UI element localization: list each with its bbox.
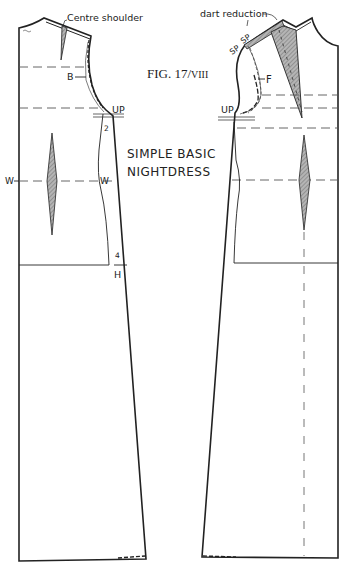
back-shoulder-seam [46, 22, 90, 39]
waist-label-right: W [100, 176, 109, 186]
front-armhole-inner [243, 75, 258, 113]
figure-titles: FIG. 17/VIII SIMPLE BASIC NIGHTDRESS [127, 66, 216, 179]
figure-number: FIG. 17/VIII [147, 66, 208, 81]
front-bust-dart [271, 26, 302, 118]
front-outline [202, 18, 338, 558]
dart-reduction-annotation: dart reduction [200, 8, 268, 19]
back-neck-mark [23, 30, 31, 32]
pattern-diagram: Centre shoulder B UP 2 W W 4 H FIG. 17/V… [0, 0, 357, 586]
front-hip-curve [234, 122, 338, 263]
hip-measure-label: 4 [115, 251, 120, 260]
hip-label: H [114, 269, 121, 280]
sp-arrow-icon [247, 20, 248, 26]
bust-label: B [67, 71, 74, 82]
back-underarm-label: UP [112, 104, 125, 115]
front-armhole-lowered [240, 46, 261, 114]
front-label: F [266, 74, 272, 85]
back-hip-curve [19, 114, 109, 265]
back-hem-adjustment [118, 556, 145, 558]
front-pattern-piece [202, 18, 338, 558]
front-waist-dart [299, 135, 310, 230]
underarm-measure-label: 2 [104, 124, 109, 133]
figure-subtitle-line-1: SIMPLE BASIC [127, 147, 216, 161]
front-armhole-adjustment [248, 48, 261, 113]
back-outline [19, 18, 146, 561]
back-waist-dart [47, 133, 57, 235]
back-pattern-piece [19, 18, 146, 561]
back-shoulder-dart [61, 26, 67, 60]
front-underarm-label: UP [221, 104, 234, 115]
waist-label-left: W [5, 176, 14, 186]
centre-shoulder-annotation: Centre shoulder [67, 12, 143, 23]
figure-subtitle-line-2: NIGHTDRESS [127, 165, 211, 179]
